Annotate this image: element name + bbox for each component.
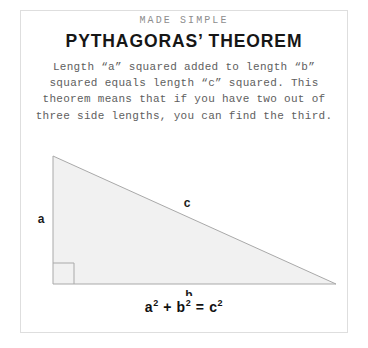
formula-equals: = xyxy=(191,299,209,315)
formula-b: b xyxy=(177,299,186,315)
formula-plus: + xyxy=(159,299,177,315)
info-card: MADE SIMPLE PYTHAGORAS’ THEOREM Length “… xyxy=(20,10,348,333)
triangle-shape xyxy=(53,156,336,284)
card-body-text: Length “a” squared added to length “b” s… xyxy=(35,59,333,124)
card-eyebrow: MADE SIMPLE xyxy=(21,15,347,26)
formula-c-exponent: 2 xyxy=(218,298,224,308)
page-title: PYTHAGORAS’ THEOREM xyxy=(21,31,347,52)
label-side-b: b xyxy=(185,288,192,296)
label-side-a: a xyxy=(38,212,45,226)
formula-c: c xyxy=(209,299,217,315)
right-triangle-diagram: a c b xyxy=(21,136,347,296)
label-side-c: c xyxy=(184,196,191,210)
pythagorean-formula: a2 + b2 = c2 xyxy=(21,299,347,315)
formula-a: a xyxy=(145,299,153,315)
